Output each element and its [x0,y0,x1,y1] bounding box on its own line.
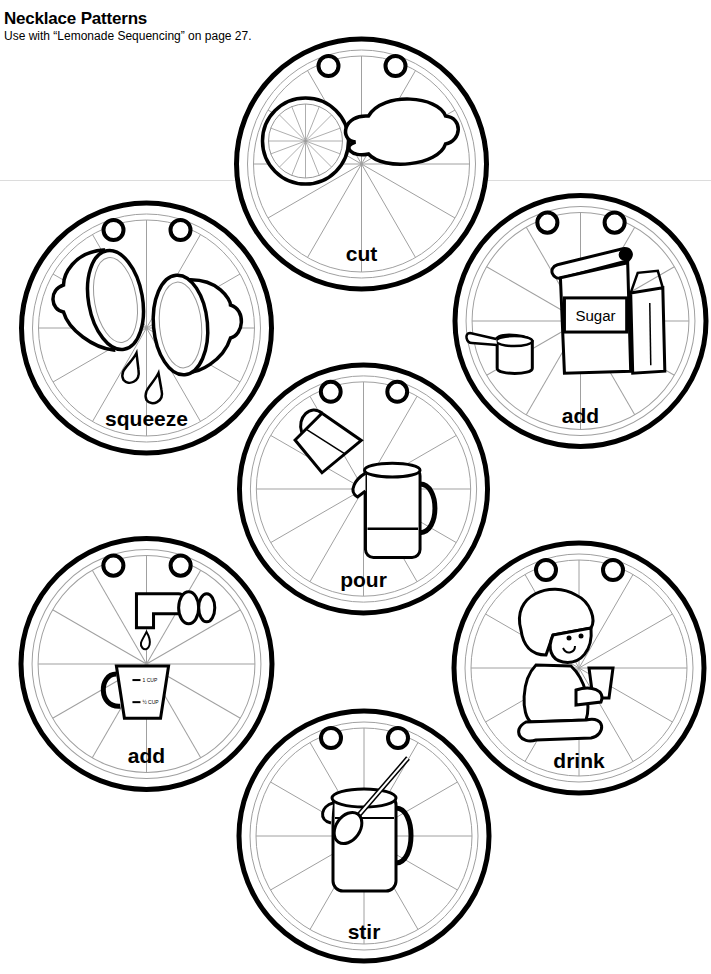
pattern-stir: stir [236,702,492,970]
pattern-label: stir [236,920,492,944]
sugar-bag-text: Sugar [575,307,615,324]
svg-text:½ CUP: ½ CUP [142,699,159,705]
page-subtitle: Use with “Lemonade Sequencing” on page 2… [4,29,252,43]
page-title: Necklace Patterns [4,9,147,29]
svg-text:1 CUP: 1 CUP [142,677,157,683]
